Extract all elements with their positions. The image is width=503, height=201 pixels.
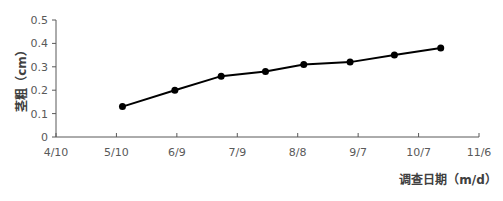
y-tick-label: 0.5 (31, 14, 49, 27)
data-point-marker (262, 68, 269, 75)
data-point-marker (437, 45, 444, 52)
data-point-marker (119, 103, 126, 110)
y-tick-label: 0.1 (31, 108, 49, 121)
y-tick-label: 0 (41, 131, 48, 144)
x-tick-label: 5/10 (104, 146, 129, 159)
data-point-marker (171, 87, 178, 94)
x-tick-label: 8/8 (289, 146, 307, 159)
x-tick-label: 7/9 (228, 146, 246, 159)
x-axis-title: 调查日期（m/d） (399, 172, 496, 187)
y-tick-label: 0.3 (31, 61, 49, 74)
x-tick-label: 10/7 (406, 146, 431, 159)
line-chart: 00.10.20.30.40.5 4/105/106/97/98/89/710/… (0, 0, 503, 201)
data-point-marker (347, 59, 354, 66)
y-tick-label: 0.2 (31, 84, 49, 97)
data-point-marker (218, 73, 225, 80)
x-tick-label: 11/6 (467, 146, 492, 159)
y-tick-label: 0.4 (31, 37, 49, 50)
y-axis-title: 茎粗（cm） (14, 44, 29, 112)
data-point-marker (391, 52, 398, 59)
data-point-marker (300, 61, 307, 68)
series-markers (119, 45, 444, 111)
x-tick-label: 9/7 (349, 146, 367, 159)
y-axis-ticks: 00.10.20.30.40.5 (31, 14, 57, 144)
x-tick-label: 4/10 (44, 146, 69, 159)
x-tick-label: 6/9 (168, 146, 186, 159)
